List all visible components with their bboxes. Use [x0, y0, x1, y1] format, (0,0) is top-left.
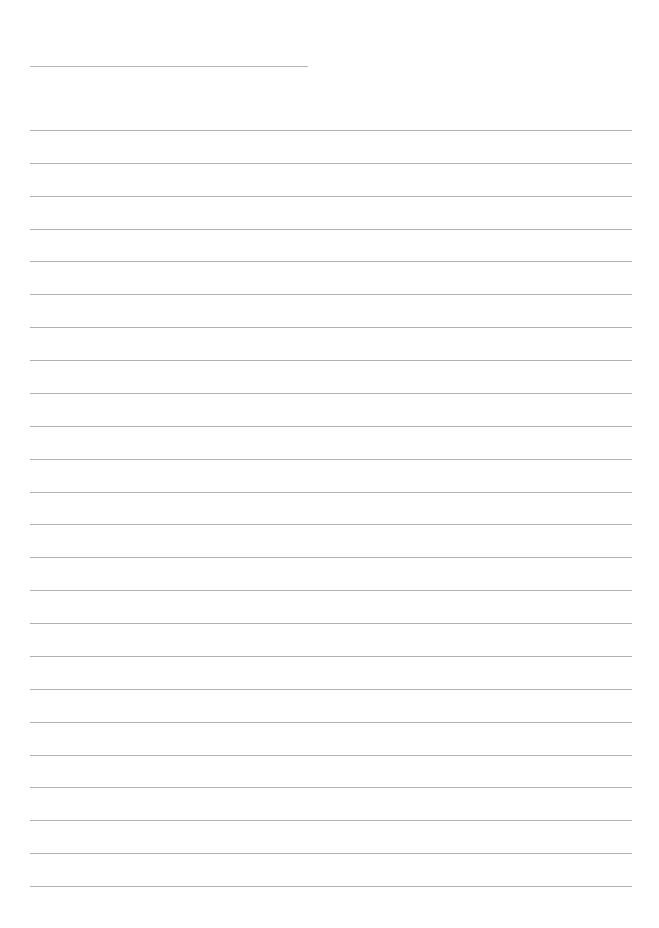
ruled-line: [30, 787, 632, 788]
ruled-line: [30, 689, 632, 690]
ruled-line: [30, 722, 632, 723]
ruled-line: [30, 327, 632, 328]
ruled-line: [30, 886, 632, 887]
ruled-line: [30, 623, 632, 624]
ruled-line: [30, 590, 632, 591]
ruled-line: [30, 492, 632, 493]
ruled-line: [30, 130, 632, 131]
ruled-line: [30, 656, 632, 657]
ruled-line: [30, 755, 632, 756]
ruled-line: [30, 459, 632, 460]
ruled-line: [30, 524, 632, 525]
title-line: [30, 66, 308, 67]
ruled-line: [30, 294, 632, 295]
ruled-line: [30, 853, 632, 854]
ruled-line: [30, 163, 632, 164]
ruled-line: [30, 196, 632, 197]
ruled-line: [30, 261, 632, 262]
ruled-line: [30, 557, 632, 558]
ruled-line: [30, 820, 632, 821]
ruled-line: [30, 393, 632, 394]
ruled-line: [30, 360, 632, 361]
lined-paper-page: [0, 0, 659, 928]
ruled-line: [30, 229, 632, 230]
ruled-line: [30, 426, 632, 427]
